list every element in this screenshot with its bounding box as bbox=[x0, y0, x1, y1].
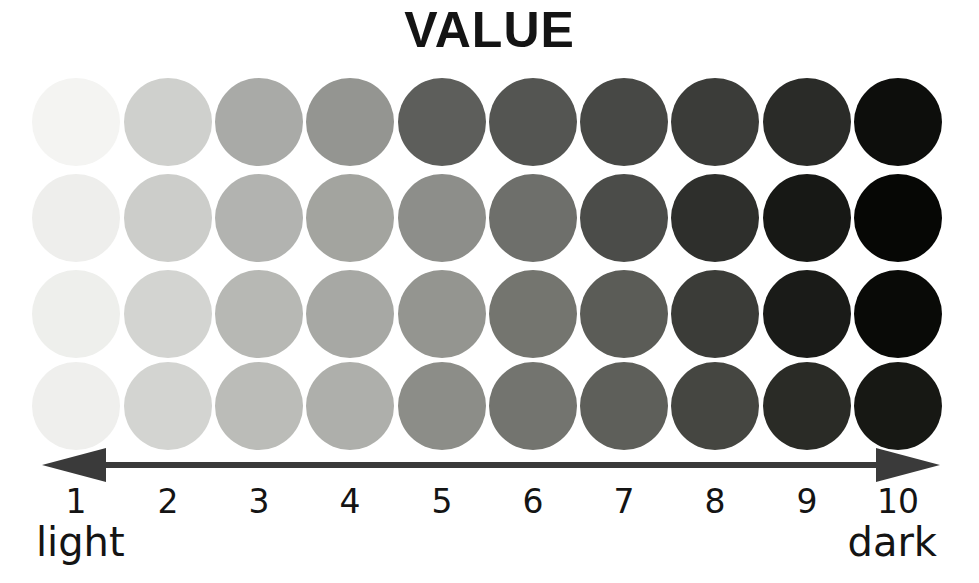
value-swatch bbox=[580, 78, 668, 166]
axis-line bbox=[92, 462, 888, 468]
value-swatch bbox=[489, 78, 577, 166]
value-swatch bbox=[580, 362, 668, 450]
value-swatch bbox=[489, 270, 577, 358]
scale-number: 4 bbox=[315, 484, 385, 520]
value-swatch bbox=[671, 78, 759, 166]
scale-number: 2 bbox=[133, 484, 203, 520]
value-swatch bbox=[671, 362, 759, 450]
value-swatch bbox=[763, 174, 851, 262]
value-swatch bbox=[32, 362, 120, 450]
value-axis bbox=[0, 440, 979, 490]
value-swatch bbox=[854, 174, 942, 262]
swatch-row bbox=[0, 270, 979, 358]
value-swatch bbox=[215, 78, 303, 166]
value-swatch bbox=[763, 78, 851, 166]
scale-number: 7 bbox=[589, 484, 659, 520]
value-swatch bbox=[124, 362, 212, 450]
scale-number: 6 bbox=[498, 484, 568, 520]
value-swatch bbox=[398, 362, 486, 450]
scale-number: 9 bbox=[772, 484, 842, 520]
value-swatch bbox=[763, 270, 851, 358]
arrow-right-icon bbox=[876, 448, 940, 482]
value-swatch bbox=[580, 174, 668, 262]
value-swatch bbox=[32, 78, 120, 166]
value-swatch bbox=[306, 78, 394, 166]
scale-number: 5 bbox=[407, 484, 477, 520]
scale-number: 10 bbox=[863, 484, 933, 520]
value-swatch bbox=[32, 174, 120, 262]
value-swatch bbox=[124, 78, 212, 166]
value-scale-figure: VALUE 12345678910 light dark bbox=[0, 0, 979, 583]
axis-label-dark: dark bbox=[847, 518, 937, 566]
value-swatch bbox=[671, 174, 759, 262]
value-swatch bbox=[398, 78, 486, 166]
value-swatch bbox=[306, 270, 394, 358]
arrow-left-icon bbox=[42, 448, 106, 482]
value-swatch bbox=[854, 362, 942, 450]
axis-arrow-svg bbox=[0, 440, 979, 490]
swatch-row bbox=[0, 174, 979, 262]
value-swatch bbox=[489, 174, 577, 262]
value-swatch bbox=[398, 270, 486, 358]
value-swatch bbox=[124, 174, 212, 262]
swatch-grid bbox=[0, 0, 979, 460]
value-swatch bbox=[306, 174, 394, 262]
value-swatch bbox=[489, 362, 577, 450]
value-swatch bbox=[580, 270, 668, 358]
value-swatch bbox=[398, 174, 486, 262]
scale-number: 8 bbox=[680, 484, 750, 520]
value-swatch bbox=[215, 270, 303, 358]
axis-end-labels: light dark bbox=[0, 518, 979, 578]
value-swatch bbox=[763, 362, 851, 450]
value-swatch bbox=[854, 78, 942, 166]
swatch-row bbox=[0, 78, 979, 166]
value-swatch bbox=[306, 362, 394, 450]
axis-label-light: light bbox=[36, 518, 125, 566]
swatch-row bbox=[0, 362, 979, 450]
value-swatch bbox=[671, 270, 759, 358]
value-swatch bbox=[32, 270, 120, 358]
value-swatch bbox=[124, 270, 212, 358]
value-swatch bbox=[215, 174, 303, 262]
scale-number: 3 bbox=[224, 484, 294, 520]
value-swatch bbox=[854, 270, 942, 358]
value-swatch bbox=[215, 362, 303, 450]
scale-number: 1 bbox=[41, 484, 111, 520]
